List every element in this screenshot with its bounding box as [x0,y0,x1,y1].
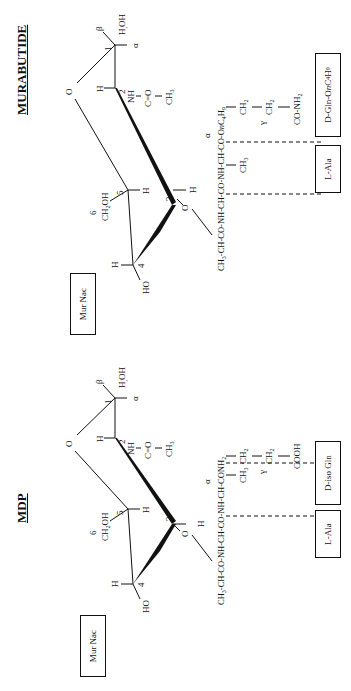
murabutide-c5-h: H [141,188,151,195]
mdp-gln-ch2-1: CH2 [238,448,248,464]
murabutide-d-gln-ester-box: D-Gln-OnC4H9 [315,53,341,137]
murabutide-chain-alpha: α [202,133,212,138]
mdp-ala-ch3: CH3 [238,467,248,483]
murabutide-h-oh: H,OH [117,14,127,35]
murabutide-acetyl-ch3: CH3 [164,89,174,105]
murabutide-c5-label: 5 [115,191,125,196]
murabutide-ring-oxygen: O [64,89,74,96]
mdp-l-ala-box: L-Ala [315,510,341,558]
murabutide-alpha: α [130,43,140,48]
murabutide-c3-h: H [188,187,198,194]
murabutide-gln-ch2-1: CH2 [238,99,248,115]
mdp-murnac-box: Mur Nac [80,615,106,677]
murabutide-gln-ch2-2: CH2 [264,99,274,115]
mdp-c3-h: H [196,521,206,528]
mdp-acetyl-ch3: CH3 [164,441,174,457]
mdp-c3-label: 3 [164,517,174,522]
mdp-gln-ch2-2: CH2 [264,448,274,464]
murabutide-title: MURABUTIDE [14,25,30,115]
murabutide-beta: β [94,26,104,31]
murabutide-murnac-box: Mur Nac [70,273,96,335]
mdp-peptide-chain: CH3-CH-CO-NH-CH-CO-NH-CH-CONH2 [216,457,226,605]
mdp-title: MDP [14,493,30,523]
murabutide-co: C=O [143,89,153,107]
murabutide-c4-ho: HO [141,281,151,294]
figure-canvas: MDP Mur Nac O 1 β α H,OH H 2 NH C=O CH3 … [0,0,351,691]
mdp-c1-label: 1 [103,400,113,405]
murabutide-c6-label: 6 [88,211,98,216]
murabutide-ch2oh: CH2OH [100,192,110,221]
murabutide-gln-conh2: CO-NH2 [292,94,302,126]
murabutide-peptide-chain: CH3-CH-CO-NH-CH-CO-NH-CH-CO-OnC4H9 [216,107,226,271]
murabutide-c1-label: 1 [103,47,113,52]
mdp-ring-oxygen: O [64,441,74,448]
mdp-nh: NH [126,442,136,455]
mdp-c6-label: 6 [88,531,98,536]
murabutide-nh: NH [126,90,136,103]
mdp-co: C=O [143,441,153,459]
murabutide-gamma: γ [257,121,267,125]
mdp-c2-h: H [95,436,105,443]
mdp-c4-label: 4 [136,583,146,588]
mdp-gamma: γ [257,470,267,474]
murabutide-c3-label: 3 [164,197,174,202]
mdp-ch2oh: CH2OH [100,512,110,541]
mdp-gln-cooh: COOH [292,443,302,469]
murabutide-c2-h: H [95,86,105,93]
murabutide-c4-h: H [110,262,120,269]
murabutide-c4-label: 4 [136,264,146,269]
mdp-c5-h: H [141,507,151,514]
murabutide-l-ala-box: L-Ala [315,145,341,193]
mdp-c4-h: H [110,581,120,588]
mdp-c3-o: O [180,531,190,538]
murabutide-c3-o: O [180,205,190,212]
mdp-beta: β [94,379,104,384]
mdp-c4-ho: HO [141,600,151,613]
mdp-alpha: α [130,396,140,401]
mdp-h-oh: H,OH [117,367,127,388]
murabutide-ala-ch3: CH3 [238,157,248,173]
mdp-chain-alpha: α [202,479,212,484]
mdp-d-iso-gln-box: D-iso Gln [315,441,341,505]
mdp-c5-label: 5 [115,511,125,516]
